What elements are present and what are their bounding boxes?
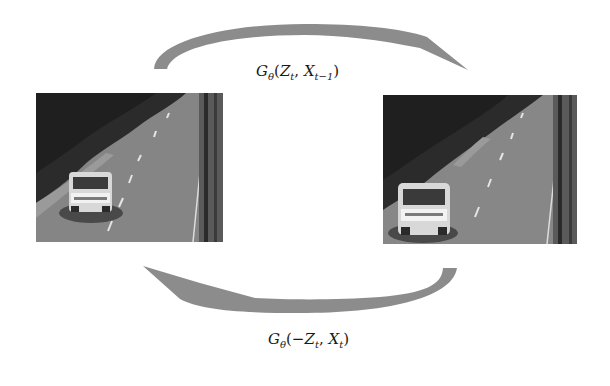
label-g: G — [256, 62, 268, 80]
diagram-canvas: Gθ(Zt, Xt−1) Gθ(−Zt, Xt) — [0, 0, 610, 386]
label-open-paren: (− — [286, 330, 304, 348]
label-comma: , — [294, 62, 304, 80]
label-x-sub: t−1 — [315, 71, 334, 82]
frame-previous-image — [36, 93, 223, 242]
label-z: Z — [280, 62, 290, 80]
highway-scene-icon — [383, 95, 577, 244]
backward-label: Gθ(−Zt, Xt) — [268, 332, 349, 350]
label-x: X — [304, 62, 315, 80]
label-close-paren: ) — [343, 330, 349, 348]
frame-current-image — [383, 95, 577, 244]
label-z: Z — [304, 330, 314, 348]
label-close-paren: ) — [333, 62, 339, 80]
label-g: G — [268, 330, 280, 348]
label-x: X — [328, 330, 339, 348]
forward-label: Gθ(Zt, Xt−1) — [256, 64, 339, 82]
highway-scene-icon — [36, 93, 223, 242]
